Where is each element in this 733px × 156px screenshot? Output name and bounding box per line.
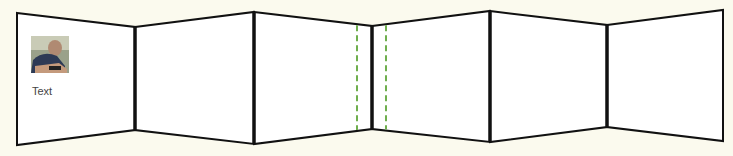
photo-thumbnail	[31, 36, 69, 73]
panel-5	[490, 11, 607, 142]
accordion-diagram	[0, 0, 733, 156]
panel-4	[372, 11, 490, 142]
panel-3	[254, 12, 372, 144]
panel-6	[607, 10, 723, 141]
panel-caption: Text	[32, 85, 52, 97]
panel-2	[135, 12, 254, 144]
panel-1	[17, 13, 135, 145]
